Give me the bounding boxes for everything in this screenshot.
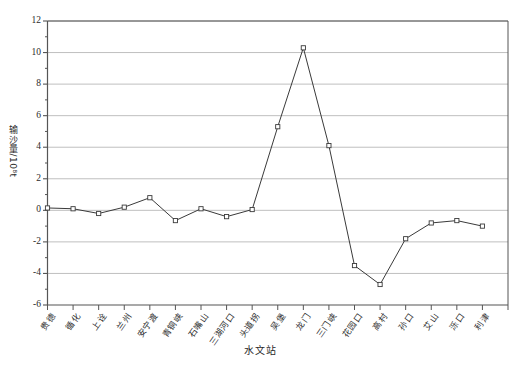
y-tick-label: 0 <box>15 205 41 215</box>
data-point-marker <box>276 125 280 129</box>
data-point-marker <box>250 207 254 211</box>
data-series-line <box>48 48 483 285</box>
data-point-marker <box>148 196 152 200</box>
axes-lines-group <box>48 21 509 305</box>
x-ticks-group <box>48 305 509 310</box>
data-point-marker <box>404 237 408 241</box>
data-point-marker <box>122 205 126 209</box>
y-tick-label: 10 <box>15 48 41 58</box>
data-point-marker <box>429 221 433 225</box>
x-axis-title: 水文站 <box>0 342 521 357</box>
data-point-marker <box>224 215 228 219</box>
data-point-marker <box>378 282 382 286</box>
data-point-marker <box>97 211 101 215</box>
data-point-marker <box>327 144 331 148</box>
y-tick-label: 12 <box>15 16 41 26</box>
y-axis-title: 输沙量/10⁸t <box>2 125 18 178</box>
data-point-marker <box>199 207 203 211</box>
y-tick-label: -4 <box>15 268 41 278</box>
y-tick-label: 2 <box>15 174 41 184</box>
data-point-marker <box>480 224 484 228</box>
y-tick-label: -2 <box>15 237 41 247</box>
data-series-markers <box>45 46 484 287</box>
y-tick-label: 8 <box>15 79 41 89</box>
y-tick-label: 6 <box>15 111 41 121</box>
data-point-marker <box>173 218 177 222</box>
series-polyline <box>48 48 483 285</box>
y-tick-label: 4 <box>15 142 41 152</box>
data-point-marker <box>455 218 459 222</box>
data-point-marker <box>301 46 305 50</box>
data-point-marker <box>45 206 49 210</box>
y-tick-label: -6 <box>15 300 41 310</box>
gridlines-group <box>48 21 509 273</box>
data-point-marker <box>71 207 75 211</box>
data-point-marker <box>352 263 356 267</box>
chart-container: 121086420-2-4-6 贵德循化上诠兰州安宁渡青铜峡石嘴山三湖河口头道拐… <box>0 0 521 374</box>
